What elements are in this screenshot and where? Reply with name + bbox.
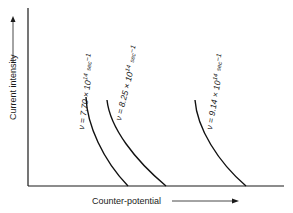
curve-label-1: ν = 7.70 × 1014sec−1: [74, 53, 97, 131]
svg-text:ν = 9.14 × 1014sec−1: ν = 9.14 × 1014sec−1: [202, 53, 227, 131]
curve-label-2: ν = 8.25 × 1014sec−1: [111, 44, 141, 121]
curve-label-3: ν = 9.14 × 1014sec−1: [202, 53, 227, 131]
x-axis-label: Counter-potential: [92, 196, 239, 206]
curve-series-3: [195, 100, 246, 186]
svg-text:Counter-potential: Counter-potential: [92, 196, 161, 206]
svg-text:ν = 8.25 × 1014sec−1: ν = 8.25 × 1014sec−1: [111, 44, 141, 121]
y-axis-label: Current intensity: [8, 16, 18, 120]
svg-text:Current intensity: Current intensity: [8, 54, 18, 120]
svg-text:ν = 7.70 × 1014sec−1: ν = 7.70 × 1014sec−1: [74, 53, 97, 131]
chart: Current intensity Counter-potential ν = …: [0, 0, 293, 213]
